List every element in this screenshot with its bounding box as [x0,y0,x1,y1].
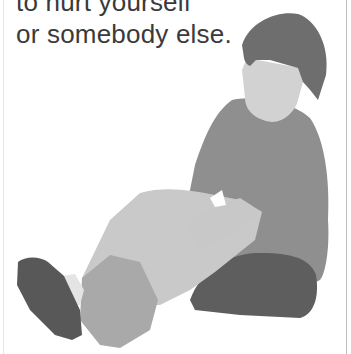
child-illustration [0,0,351,354]
shoe [17,258,82,341]
